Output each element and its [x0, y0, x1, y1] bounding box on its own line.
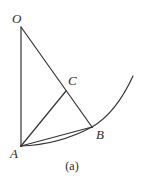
vertex-point-B: [91, 126, 93, 128]
segment-AB: [21, 127, 92, 146]
figure-container: O C B A (a): [0, 0, 144, 186]
vertex-label-C: C: [68, 74, 77, 87]
segment-OB: [21, 27, 92, 127]
vertex-label-A: A: [10, 147, 18, 160]
vertex-label-B: B: [96, 128, 104, 141]
segment-AC: [21, 91, 66, 146]
vertex-point-A: [20, 145, 22, 147]
vertex-label-O: O: [12, 12, 21, 25]
figure-caption: (a): [0, 160, 144, 172]
curve-through-A-B: [21, 76, 133, 146]
